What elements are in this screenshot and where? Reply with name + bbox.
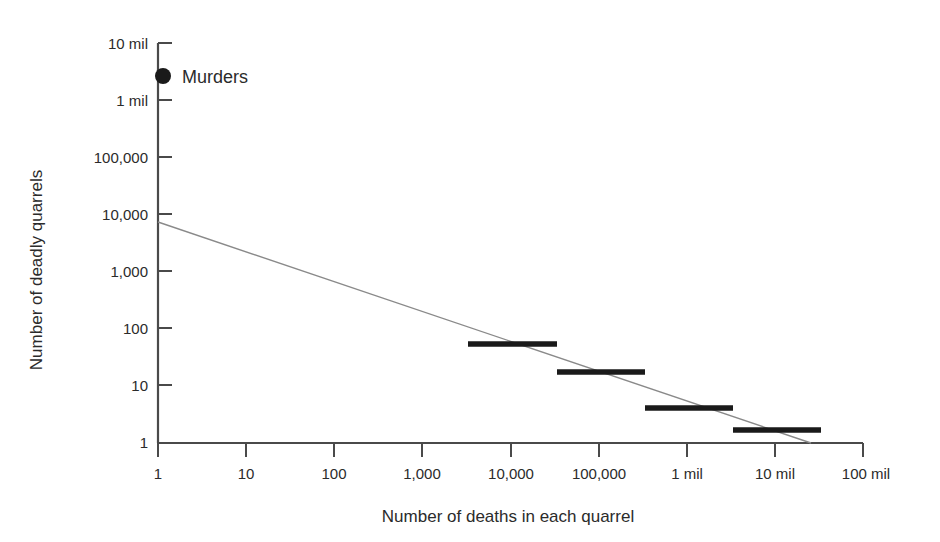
y-tick-label: 10,000 xyxy=(102,206,148,223)
x-tick-label: 1 xyxy=(154,465,162,482)
x-axis-title: Number of deaths in each quarrel xyxy=(382,507,634,526)
y-tick-label: 100,000 xyxy=(94,149,148,166)
y-axis-title: Number of deadly quarrels xyxy=(27,170,46,370)
x-tick-label: 1 mil xyxy=(671,465,703,482)
y-tick-label: 10 mil xyxy=(108,35,148,52)
y-tick-label: 10 xyxy=(131,377,148,394)
deadly-quarrels-log-log-chart: 10 mil 1 mil 100,000 10,000 1,000 100 10… xyxy=(0,0,940,542)
y-tick-label: 100 xyxy=(123,320,148,337)
y-tick-label: 1 xyxy=(140,434,148,451)
y-axis-ticks xyxy=(158,43,172,385)
chart-container: 10 mil 1 mil 100,000 10,000 1,000 100 10… xyxy=(0,0,940,542)
x-tick-label: 10 mil xyxy=(755,465,795,482)
x-tick-label: 1,000 xyxy=(403,465,441,482)
x-axis-ticks xyxy=(158,443,863,457)
y-tick-label: 1 mil xyxy=(116,92,148,109)
x-tick-label: 10,000 xyxy=(488,465,534,482)
y-tick-label: 1,000 xyxy=(110,263,148,280)
x-tick-label: 100,000 xyxy=(572,465,626,482)
x-tick-label: 100 mil xyxy=(842,465,890,482)
x-tick-label: 100 xyxy=(321,465,346,482)
murders-series-label: Murders xyxy=(182,67,248,87)
x-tick-label: 10 xyxy=(238,465,255,482)
murders-data-point xyxy=(155,68,171,84)
